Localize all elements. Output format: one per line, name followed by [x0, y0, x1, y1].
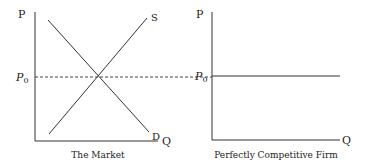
market-title: The Market [71, 150, 125, 160]
supply-label: S [151, 12, 158, 23]
market-price-label: P0 [15, 71, 29, 85]
firm-panel: P Q P0 Perfectly Competitive Firm [194, 8, 351, 160]
demand-curve [48, 20, 149, 132]
firm-price-label: P0 [194, 70, 208, 84]
market-x-axis-label: Q [162, 135, 171, 148]
market-firm-diagram: P Q S D P0 The Market P Q P0 Perfectly C… [0, 0, 365, 167]
firm-x-axis-label: Q [342, 134, 351, 147]
firm-y-axis-label: P [196, 8, 204, 21]
demand-label: D [152, 131, 160, 142]
firm-title: Perfectly Competitive Firm [214, 150, 338, 160]
market-y-axis-label: P [18, 8, 26, 21]
market-panel: P Q S D P0 The Market [15, 8, 212, 160]
